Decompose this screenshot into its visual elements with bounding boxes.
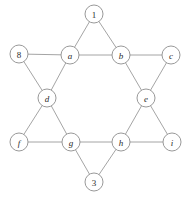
graph-node-e[interactable]: e — [137, 89, 155, 107]
graph-edge-8-d — [24, 62, 42, 91]
node-label-e: e — [144, 94, 148, 104]
graph-node-8[interactable]: 8 — [10, 45, 28, 63]
graph-edge-b-e — [126, 63, 142, 90]
node-label-a: a — [68, 51, 73, 61]
graph-node-1[interactable]: 1 — [85, 5, 103, 23]
graph-figure: 18abcdefghi3 — [0, 0, 189, 203]
graph-node-h[interactable]: h — [112, 133, 130, 151]
node-label-g: g — [69, 138, 74, 148]
graph-node-d[interactable]: d — [38, 89, 56, 107]
graph-node-f[interactable]: f — [10, 133, 28, 151]
graph-node-a[interactable]: a — [61, 46, 79, 64]
graph-edge-1-a — [75, 22, 90, 47]
hexagram-graph-canvas: 18abcdefghi3 — [0, 0, 189, 203]
graph-edge-8-a — [28, 54, 61, 55]
node-label-d: d — [45, 94, 50, 104]
node-label-h: h — [119, 138, 124, 148]
graph-edge-h-3 — [99, 149, 116, 174]
graph-edge-a-d — [51, 63, 66, 90]
graph-edge-d-f — [24, 106, 42, 135]
node-label-b: b — [119, 51, 124, 61]
node-label-c: c — [169, 51, 173, 61]
graph-edge-e-i — [151, 106, 168, 135]
graph-node-3[interactable]: 3 — [85, 173, 103, 191]
graph-edge-d-g — [51, 106, 66, 134]
node-label-8: 8 — [17, 50, 22, 60]
nodes-layer: 18abcdefghi3 — [10, 5, 181, 191]
graph-edge-c-e — [151, 63, 167, 90]
graph-node-i[interactable]: i — [163, 133, 181, 151]
graph-node-c[interactable]: c — [162, 46, 180, 64]
node-label-1: 1 — [92, 10, 97, 20]
graph-node-g[interactable]: g — [62, 133, 80, 151]
graph-edge-1-b — [99, 22, 116, 48]
node-label-3: 3 — [92, 178, 97, 188]
graph-node-b[interactable]: b — [112, 46, 130, 64]
graph-edge-e-h — [125, 106, 141, 134]
graph-edge-g-3 — [75, 150, 89, 174]
